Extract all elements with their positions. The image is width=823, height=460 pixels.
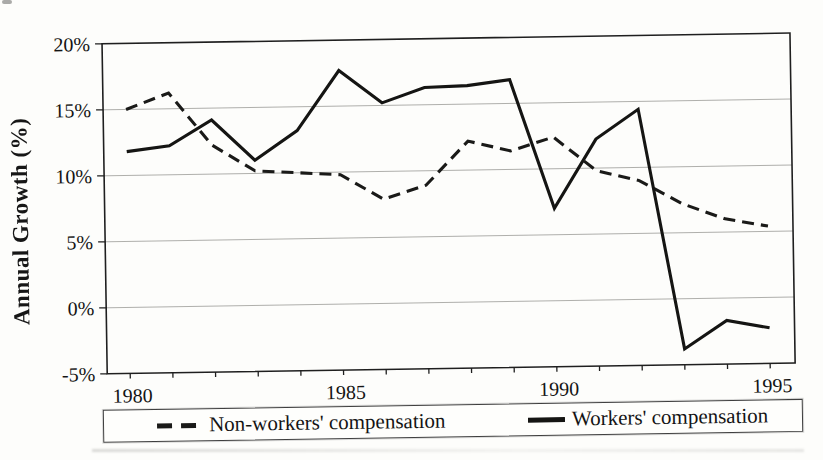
line-chart: 20%15%10%5%0%-5%1980198519901995 — [0, 0, 823, 408]
legend: Non-workers' compensation Workers' compe… — [103, 399, 803, 443]
y-tick-label: 20% — [53, 33, 90, 56]
y-tick-label: 0% — [67, 297, 94, 319]
dashed-series-line — [126, 84, 768, 237]
legend-item-non-workers: Non-workers' compensation — [156, 405, 446, 441]
scanned-chart-page: Annual Growth (%) 20%15%10%5%0%-5%198019… — [0, 0, 823, 460]
y-tick-label: -5% — [62, 363, 96, 386]
legend-label-workers: Workers' compensation — [572, 403, 769, 431]
gridline — [103, 99, 791, 110]
dashed-line-key-icon — [156, 420, 202, 431]
legend-item-workers: Workers' compensation — [528, 400, 769, 435]
y-tick-label: 10% — [55, 165, 92, 188]
plot-frame — [102, 33, 795, 374]
y-tick-label: 5% — [66, 231, 93, 253]
x-tick-label: 1995 — [752, 374, 792, 397]
gridline — [105, 231, 793, 242]
solid-line-key-icon — [528, 414, 565, 425]
scan-artifact-streak — [92, 449, 804, 452]
y-tick-label: 15% — [54, 99, 91, 122]
x-tick-label: 1990 — [539, 377, 579, 400]
figure: Annual Growth (%) 20%15%10%5%0%-5%198019… — [0, 0, 823, 460]
gridline — [104, 165, 792, 176]
gridline — [106, 297, 794, 308]
x-tick-label: 1985 — [326, 381, 366, 404]
scan-artifact-speck — [2, 0, 12, 4]
x-tick-label: 1980 — [112, 384, 152, 407]
legend-label-non-workers: Non-workers' compensation — [209, 408, 446, 437]
